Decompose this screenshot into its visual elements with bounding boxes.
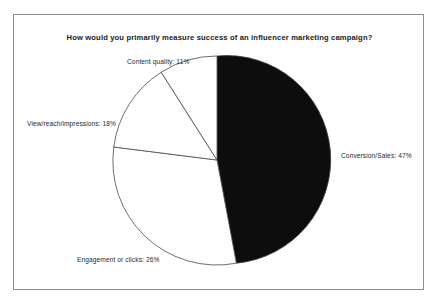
pie-slice-engagement[interactable] [113, 147, 237, 265]
pie-label-conversion: Conversion/Sales: 47% [341, 151, 412, 160]
pie-label-content-quality: Content quality: 11% [127, 57, 189, 66]
pie-label-view-reach: View/reach/impressions: 18% [27, 119, 116, 128]
pie-label-engagement: Engagement or clicks: 26% [77, 255, 159, 264]
pie-slice-conversion[interactable] [217, 56, 331, 264]
